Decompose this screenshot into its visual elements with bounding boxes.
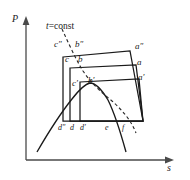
saturation-dome-curve bbox=[37, 83, 126, 152]
isotherm-annotation-rest: =const bbox=[49, 21, 74, 31]
point-label-c1: c′ bbox=[72, 79, 78, 88]
y-axis-arrowhead bbox=[23, 16, 30, 25]
isotherm-annotation: t=const bbox=[46, 22, 74, 32]
y-axis-label: P bbox=[12, 14, 18, 24]
middle-cycle-path bbox=[70, 65, 143, 121]
point-label-d: d bbox=[70, 124, 74, 132]
point-label-a: a bbox=[137, 58, 142, 67]
point-label-c: c bbox=[65, 55, 69, 64]
point-label-f: f bbox=[122, 124, 124, 132]
point-label-d1: d′ bbox=[80, 124, 86, 132]
point-label-d2: d″ bbox=[58, 124, 65, 132]
point-label-b: b bbox=[78, 55, 83, 64]
point-label-e: e bbox=[105, 124, 109, 132]
point-label-b1: b′ bbox=[88, 76, 94, 85]
ps-diagram-figure: P s t=const a″ a a′ c″ b″ c b c′ b′ d″ d… bbox=[0, 0, 190, 180]
point-label-b2: b″ bbox=[75, 40, 83, 49]
point-label-a1: a′ bbox=[138, 73, 144, 82]
x-axis-label: s bbox=[167, 163, 171, 173]
point-label-c2: c″ bbox=[54, 40, 62, 49]
diagram-canvas bbox=[0, 0, 190, 180]
point-label-a2: a″ bbox=[135, 42, 143, 51]
